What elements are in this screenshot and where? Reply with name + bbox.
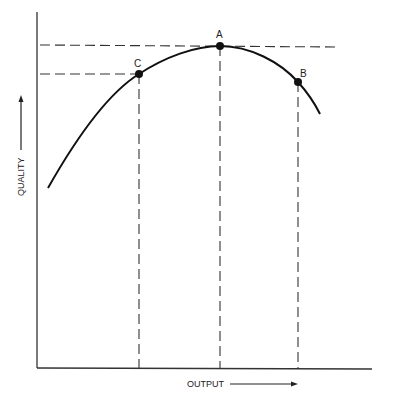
quality-output-diagram: A B C QUALITY OUTPUT — [0, 0, 420, 402]
point-a-label: A — [216, 29, 223, 40]
point-b-label: B — [300, 68, 307, 79]
arrow-right-icon — [291, 382, 298, 387]
point-b — [294, 78, 302, 86]
x-axis — [37, 368, 372, 369]
y-axis-label: QUALITY — [16, 157, 26, 196]
point-c-label: C — [134, 58, 141, 69]
quality-curve — [48, 46, 320, 188]
point-c — [135, 70, 143, 78]
point-a — [216, 42, 224, 50]
x-axis-label: OUTPUT — [187, 379, 225, 389]
dashed-line-a-horizontal — [40, 45, 337, 47]
arrow-up-icon — [19, 95, 24, 102]
